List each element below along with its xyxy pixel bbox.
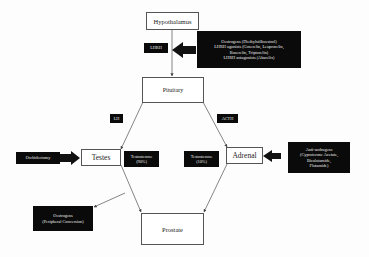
orchidectomy-text: Orchidectomy [26,155,51,160]
node-prostate: Prostate [141,213,204,245]
pituitary-label: Pituitary [163,87,184,93]
lhrh-text: LHRH [150,45,162,50]
hypothalamus-label: Hypothalamus [154,18,192,25]
node-hypothalamus: Hypothalamus [146,12,199,30]
acth-text: ACTH [222,116,234,121]
node-pituitary: Pituitary [142,77,204,103]
testosterone-pct: (10%) [196,159,207,164]
lhrh-label: LHRH [144,43,168,53]
anti-androgens-box: Anti-androgens (Cyproterone Acetate, Bic… [288,142,350,173]
hypothalamic-interventions-box: Oestrogens (Diethylstilboestrol) LHRH ag… [197,31,301,68]
lh-text: LH [114,116,120,121]
testosterone-adrenal-label: Testosterone (10%) [184,151,219,167]
testosterone-testes-label: Testosterone (90%) [124,151,159,167]
lh-label: LH [110,114,123,123]
intervention-line: (Peripheral Conversion) [42,219,83,224]
prostate-label: Prostate [162,226,183,233]
intervention-line: Flutamide) [310,163,329,168]
node-adrenal: Adrenal [226,147,263,164]
acth-label: ACTH [217,114,238,123]
intervention-line: LHRH antagonists (Abarelix) [223,55,274,60]
adrenal-label: Adrenal [232,151,256,160]
orchidectomy-block-arrow [60,151,80,165]
orchidectomy-box: Orchidectomy [16,152,60,164]
peripheral-oestrogens-box: Oestrogens (Peripheral Conversion) [33,206,93,231]
anti-androgen-block-arrow [263,150,281,162]
testes-label: Testes [92,153,111,162]
hypothalamic-block-arrow [172,42,196,58]
node-testes: Testes [81,149,121,166]
testosterone-pct: (90%) [136,159,147,164]
